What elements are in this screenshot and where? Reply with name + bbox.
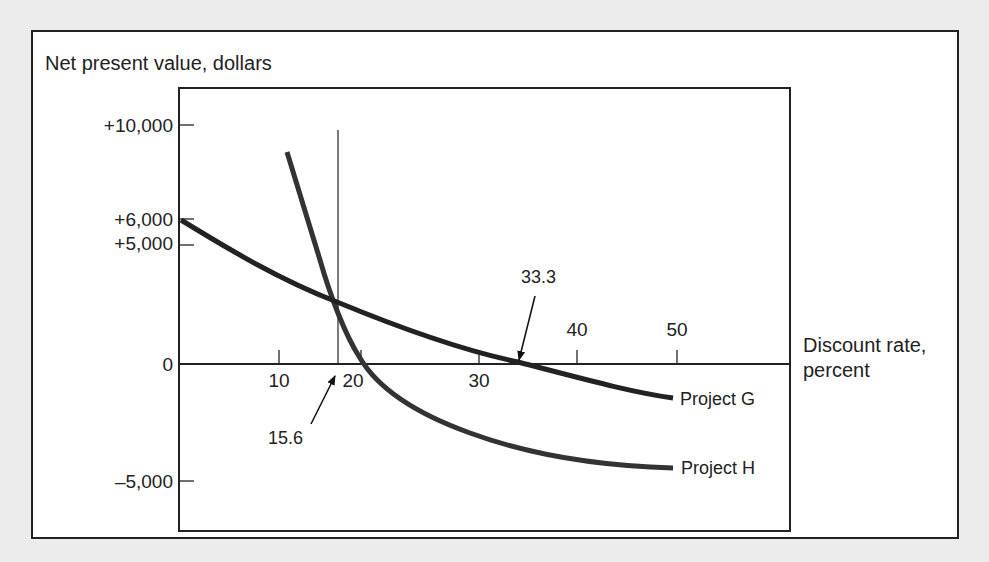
y-tick-label: –5,000 [33,472,173,491]
x-tick-label: 50 [657,320,697,339]
x-axis-title-line1: Discount rate, [803,335,926,355]
x-tick-label: 20 [333,371,373,390]
y-tick-label: +5,000 [33,234,173,253]
annotation-label-15-6: 15.6 [268,429,303,447]
x-axis-title-line2: percent [803,360,870,380]
x-tick-label: 10 [259,371,299,390]
x-tick-label: 30 [459,371,499,390]
annotation-label-33-3: 33.3 [521,268,556,286]
x-tick-label: 40 [557,320,597,339]
y-tick-label: 0 [33,355,173,374]
series-label-project-h: Project H [681,459,755,477]
series-label-project-g: Project G [680,390,755,408]
y-tick-label: +6,000 [33,210,173,229]
y-tick-label: +10,000 [33,116,173,135]
y-axis-title: Net present value, dollars [45,53,272,73]
